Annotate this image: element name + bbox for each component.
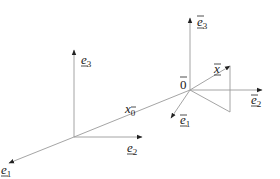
label-e1-bar: e1	[180, 112, 190, 129]
svg-text:e1: e1	[1, 162, 11, 179]
x-bar-vector	[190, 66, 230, 90]
label-e2: e2	[127, 140, 137, 157]
svg-text:e3: e3	[81, 52, 92, 69]
e1-axis	[9, 137, 74, 163]
label-e3-bar: e3	[197, 14, 208, 31]
label-origin: 0	[180, 77, 187, 92]
svg-text:e2: e2	[127, 140, 137, 157]
label-x0: x0	[124, 101, 136, 118]
global-frame	[9, 50, 142, 163]
projection-diagonal	[190, 90, 230, 112]
label-x-bar: x	[213, 61, 221, 76]
label-e3: e3	[81, 52, 92, 69]
svg-text:x: x	[213, 61, 220, 76]
svg-text:e3: e3	[197, 14, 208, 31]
svg-text:0: 0	[180, 77, 187, 92]
svg-text:x0: x0	[124, 101, 136, 118]
coordinate-diagram: e3 e2 e1 x0 0 e3 e2 e1 x	[0, 0, 280, 179]
svg-text:e2: e2	[251, 92, 261, 109]
svg-text:e1: e1	[180, 112, 190, 129]
label-e2-bar: e2	[251, 92, 261, 109]
label-e1: e1	[1, 162, 11, 179]
